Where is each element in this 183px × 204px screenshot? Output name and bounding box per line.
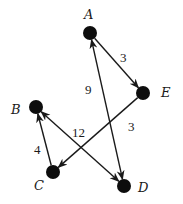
edge-d-a xyxy=(92,40,123,179)
edge-weight-label: 12 xyxy=(72,125,85,140)
node-label-a: A xyxy=(83,7,93,22)
node-label-b: B xyxy=(10,102,21,117)
graph-diagram: 334129AEBCD xyxy=(0,0,183,204)
edge-weight-label: 3 xyxy=(120,50,127,65)
node-label-e: E xyxy=(160,85,171,100)
edge-weight-label: 4 xyxy=(34,142,41,157)
edge-e-c xyxy=(58,98,137,168)
node-c xyxy=(46,165,60,179)
edge-weight-label: 3 xyxy=(128,119,135,134)
node-label-c: C xyxy=(34,178,44,193)
node-d xyxy=(117,179,131,193)
edge-c-b xyxy=(38,114,51,165)
node-e xyxy=(136,86,150,100)
node-label-d: D xyxy=(137,180,149,195)
node-b xyxy=(29,100,43,114)
node-a xyxy=(83,26,97,40)
nodes-layer xyxy=(29,26,150,193)
edge-weight-label: 9 xyxy=(85,82,92,97)
